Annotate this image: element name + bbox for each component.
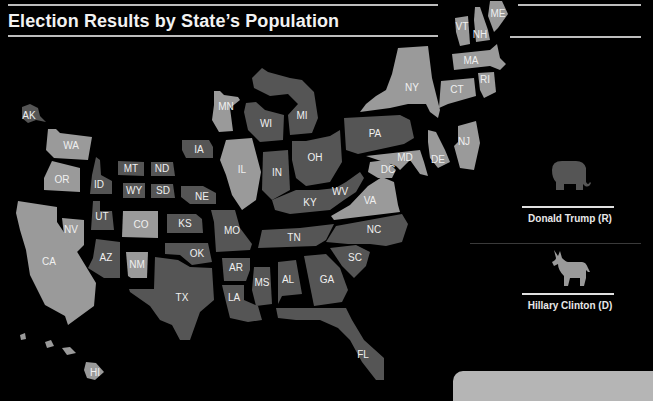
state-label-MI: MI	[296, 110, 307, 121]
footer-banner	[453, 371, 653, 401]
state-label-NY: NY	[405, 82, 419, 93]
state-FL[interactable]: FL	[276, 308, 384, 380]
state-UT[interactable]: UT	[91, 201, 114, 230]
state-NJ[interactable]: NJ	[454, 121, 480, 170]
state-WY[interactable]: WY	[123, 183, 145, 198]
state-label-ND: ND	[155, 163, 169, 174]
state-label-FL: FL	[357, 349, 369, 360]
state-MT[interactable]: MT	[118, 161, 144, 176]
state-label-AL: AL	[282, 274, 295, 285]
state-label-CT: CT	[450, 84, 463, 95]
state-KS[interactable]: KS	[167, 214, 203, 233]
state-HI[interactable]: HI	[20, 333, 104, 380]
state-IN[interactable]: IN	[262, 150, 290, 200]
state-AK[interactable]: AK	[22, 104, 46, 123]
state-NY[interactable]: NY	[360, 46, 440, 118]
state-label-MA: MA	[464, 55, 479, 66]
state-label-ME: ME	[491, 8, 506, 19]
state-label-RI: RI	[480, 74, 490, 85]
state-label-IN: IN	[272, 167, 282, 178]
state-label-ID: ID	[94, 179, 104, 190]
state-NH[interactable]: NH	[473, 7, 490, 42]
state-WI[interactable]: WI	[244, 102, 284, 142]
state-label-NE: NE	[195, 191, 209, 202]
legend-republican	[520, 160, 620, 190]
state-PA[interactable]: PA	[344, 115, 414, 154]
state-label-WY: WY	[126, 185, 142, 196]
state-RI[interactable]: RI	[478, 72, 496, 98]
state-label-LA: LA	[228, 292, 241, 303]
state-label-WI: WI	[260, 118, 272, 129]
legend-label-democrat: Hillary Clinton (D)	[500, 300, 640, 311]
state-label-MO: MO	[224, 225, 240, 236]
state-label-IA: IA	[194, 144, 204, 155]
state-DE[interactable]: DE	[428, 130, 450, 168]
state-label-NH: NH	[473, 29, 487, 40]
state-label-PA: PA	[369, 128, 382, 139]
state-label-NC: NC	[367, 224, 381, 235]
state-NE[interactable]: NE	[181, 186, 216, 204]
state-AR[interactable]: AR	[222, 258, 250, 281]
state-label-DE: DE	[431, 154, 445, 165]
legend-label-republican: Donald Trump (R)	[500, 213, 640, 224]
legend-democrat	[520, 248, 620, 288]
state-SD[interactable]: SD	[151, 184, 175, 198]
state-IL[interactable]: IL	[220, 138, 261, 210]
state-ID[interactable]: ID	[90, 157, 112, 194]
state-label-VA: VA	[364, 195, 377, 206]
state-label-WA: WA	[63, 140, 79, 151]
state-label-AZ: AZ	[100, 252, 113, 263]
state-MS[interactable]: MS	[252, 267, 272, 306]
state-DC[interactable]: DC	[368, 160, 396, 178]
state-OH[interactable]: OH	[292, 130, 342, 186]
state-label-TN: TN	[287, 232, 300, 243]
state-label-NV: NV	[64, 224, 78, 235]
legend-rule-republican	[522, 206, 614, 208]
state-CA[interactable]: CA	[16, 201, 96, 325]
state-label-OK: OK	[190, 248, 205, 259]
state-label-SC: SC	[348, 252, 362, 263]
state-label-IL: IL	[238, 164, 247, 175]
state-label-SD: SD	[156, 185, 170, 196]
state-label-HI: HI	[90, 367, 100, 378]
state-ND[interactable]: ND	[151, 162, 175, 176]
state-IA[interactable]: IA	[182, 140, 213, 158]
state-label-AR: AR	[229, 262, 243, 273]
elephant-icon	[548, 160, 592, 190]
state-label-OH: OH	[308, 152, 323, 163]
state-MO[interactable]: MO	[211, 210, 252, 252]
state-label-TX: TX	[176, 292, 189, 303]
state-MA[interactable]: MA	[452, 44, 506, 70]
state-label-DC: DC	[381, 164, 395, 175]
state-TN[interactable]: TN	[258, 224, 334, 248]
state-OR[interactable]: OR	[44, 161, 80, 192]
state-label-VT: VT	[456, 21, 469, 32]
state-AZ[interactable]: AZ	[88, 239, 120, 278]
state-label-MD: MD	[397, 152, 413, 163]
state-ME[interactable]: ME	[488, 1, 508, 32]
state-label-UT: UT	[95, 211, 108, 222]
state-label-MN: MN	[218, 101, 234, 112]
state-label-AK: AK	[22, 110, 36, 121]
state-WA[interactable]: WA	[46, 129, 92, 160]
state-VT[interactable]: VT	[455, 16, 470, 46]
state-MN[interactable]: MN	[212, 91, 240, 132]
legend-rule-democrat	[522, 293, 614, 295]
state-label-CO: CO	[134, 219, 149, 230]
state-label-OR: OR	[55, 174, 70, 185]
donkey-icon	[548, 248, 592, 288]
state-label-NM: NM	[129, 259, 145, 270]
state-label-WV: WV	[332, 186, 348, 197]
state-label-MT: MT	[124, 163, 138, 174]
state-label-MS: MS	[255, 277, 270, 288]
state-label-GA: GA	[320, 274, 335, 285]
state-AL[interactable]: AL	[278, 260, 302, 304]
state-label-KS: KS	[178, 218, 192, 229]
legend-divider	[470, 243, 641, 244]
state-CT[interactable]: CT	[439, 78, 476, 108]
state-label-NJ: NJ	[458, 136, 470, 147]
state-NM[interactable]: NM	[126, 252, 148, 278]
state-CO[interactable]: CO	[122, 211, 158, 238]
state-label-KY: KY	[303, 197, 317, 208]
